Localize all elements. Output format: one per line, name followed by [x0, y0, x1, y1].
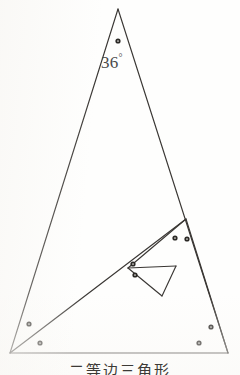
segment-bisector-4 [128, 268, 162, 296]
level2-left-dot [172, 235, 177, 240]
figure-caption: 二等边三角形 [0, 360, 240, 375]
level3-lower-dot [132, 272, 137, 277]
level2-right-dot [184, 236, 189, 241]
apex-dot [115, 38, 120, 43]
segment-bisector-3 [128, 219, 186, 268]
figure-page: 36° 二等边三角形 [0, 0, 240, 375]
apex-angle-label: 36° [101, 52, 123, 73]
segment-bisector-6 [162, 266, 176, 296]
segment-bisector-5 [128, 266, 176, 268]
base-left-lower-dot [37, 340, 42, 345]
base-left-upper-dot [26, 321, 31, 326]
segment-bisector-2 [186, 219, 228, 353]
base-right-upper-dot [208, 324, 213, 329]
level3-upper-dot [130, 261, 135, 266]
degree-symbol: ° [119, 52, 123, 63]
apex-angle-value: 36 [101, 53, 119, 72]
segment-bisector-1 [10, 219, 186, 353]
base-right-lower-dot [196, 340, 201, 345]
